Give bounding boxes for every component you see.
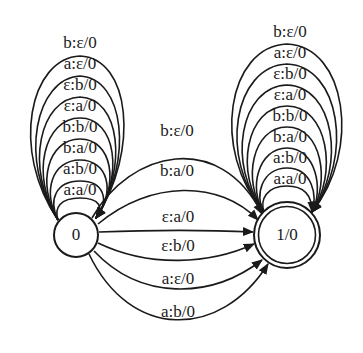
edge-label: b:b/0 [273, 106, 308, 125]
edge-label: b:a/0 [273, 127, 307, 146]
state-0-label: 0 [72, 225, 81, 244]
loop-labels-state-0: b:ε/0 a:ε/0 ε:b/0 ε:a/0 b:b/0 b:a/0 a:b/… [63, 33, 98, 199]
edge-label: a:ε/0 [162, 269, 195, 288]
edge-label: ε:a/0 [64, 96, 97, 115]
transducer-diagram: 0 1/0 b:ε/0 a:ε/0 ε:b/0 ε:a/0 b:b/0 b:a/… [0, 0, 363, 353]
state-0[interactable]: 0 [54, 213, 98, 257]
edge-label: b:a/0 [63, 138, 97, 157]
loop-labels-state-1: b:ε/0 a:ε/0 ε:b/0 ε:a/0 b:b/0 b:a/0 a:b/… [273, 22, 308, 188]
edge-label: ε:b/0 [273, 64, 307, 83]
edge-label: a:b/0 [63, 159, 97, 178]
edge-label: b:a/0 [160, 161, 194, 180]
edge-label: b:ε/0 [273, 22, 307, 41]
edge-label: a:b/0 [161, 302, 195, 321]
edge-label: a:a/0 [63, 180, 96, 199]
edge-label: b:ε/0 [63, 33, 97, 52]
edge-label: ε:a/0 [274, 85, 307, 104]
edge-label: b:b/0 [63, 117, 98, 136]
edge-label: ε:b/0 [161, 236, 195, 255]
edge-labels-0-to-1: b:ε/0 b:a/0 ε:a/0 ε:b/0 a:ε/0 a:b/0 [160, 121, 195, 321]
edge-label: ε:a/0 [162, 207, 195, 226]
edge-label: a:b/0 [273, 148, 307, 167]
edge-label: a:ε/0 [64, 54, 97, 73]
edge-label: a:a/0 [273, 169, 306, 188]
state-1-final[interactable]: 1/0 [254, 202, 320, 268]
state-1-label: 1/0 [276, 225, 298, 244]
edge-label: a:ε/0 [274, 43, 307, 62]
edge-label: b:ε/0 [160, 121, 194, 140]
edge-label: ε:b/0 [63, 75, 97, 94]
